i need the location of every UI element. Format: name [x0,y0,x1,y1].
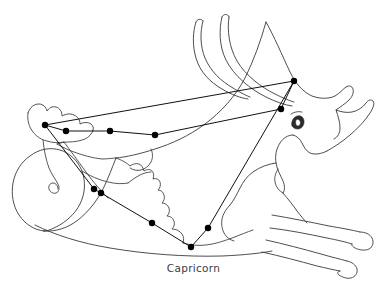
mid-body-fin-wisp [64,142,108,198]
star-connector-line [191,228,208,247]
belly-fur-zigzag [116,158,184,243]
chest-ruff-outline [230,163,276,205]
star-connector-line [45,81,294,125]
star-marker [205,225,211,231]
constellation-lines-group [45,81,294,247]
star-connector-line [45,125,94,189]
star-marker [188,244,194,250]
belly-lower-line [183,230,253,245]
front-leg-upper-outline [283,193,307,223]
front-leg-two-top [266,240,347,261]
head-crown-outline [266,22,374,151]
front-hoof-one [352,232,373,250]
star-marker [42,122,48,128]
capricorn-illustration [0,0,387,291]
star-marker [152,132,158,138]
constellation-figure [0,0,387,291]
star-connector-line [101,193,152,223]
rear-horn-tip [196,19,203,22]
star-marker [63,128,69,134]
front-leg-one-bottom [270,228,352,244]
muzzle-outline [293,135,327,154]
star-marker [107,128,113,134]
shoulder-fur-edge [130,149,153,170]
star-marker [149,220,155,226]
knee-fur-detail [128,172,151,183]
tail-spiral-curl [43,140,59,193]
front-horn-tip [222,14,229,17]
star-marker [291,78,297,84]
star-connector-line [152,223,191,247]
fish-tail-disc [12,149,84,231]
eye-brow-line [291,112,302,114]
goat-outline-group [12,14,374,278]
chest-wool-line [222,205,234,241]
eye-icon [292,116,304,129]
star-connector-line [110,131,155,135]
ear-outline [334,110,340,139]
figure-caption: Capricorn [0,262,387,274]
star-marker [91,186,97,192]
underbelly-sweep [35,225,272,256]
jaw-neck-outline [276,135,293,193]
tail-fluke-outline [28,104,93,130]
front-leg-one-top [272,215,360,232]
star-marker [278,106,284,112]
star-connector-line [45,125,66,131]
star-connector-line [208,81,294,228]
star-marker [98,190,104,196]
